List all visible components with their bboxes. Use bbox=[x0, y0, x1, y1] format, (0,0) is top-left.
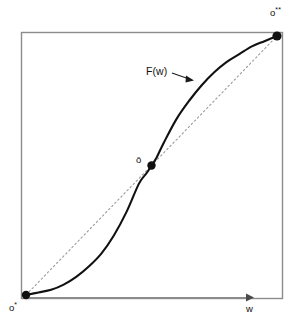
label-axis-x: w bbox=[246, 304, 253, 314]
label-point-end-superscript: ** bbox=[275, 6, 281, 13]
label-point-start: o* bbox=[9, 301, 17, 313]
callout-arrowhead bbox=[186, 76, 195, 83]
point-marker-end bbox=[272, 31, 281, 40]
label-point-end: o** bbox=[270, 6, 281, 18]
diagram-canvas bbox=[0, 0, 302, 325]
x-axis bbox=[26, 294, 254, 302]
curve-callout-leader bbox=[172, 73, 194, 83]
label-curve-f-of-w: F(w) bbox=[146, 66, 167, 77]
label-point-start-superscript: * bbox=[14, 301, 17, 308]
x-axis-arrowhead bbox=[246, 294, 254, 302]
label-point-mid: ō bbox=[136, 155, 141, 165]
point-marker-start bbox=[22, 291, 30, 299]
figure-container: o* o** ō F(w) w bbox=[0, 0, 302, 325]
point-marker-mid bbox=[147, 161, 155, 169]
